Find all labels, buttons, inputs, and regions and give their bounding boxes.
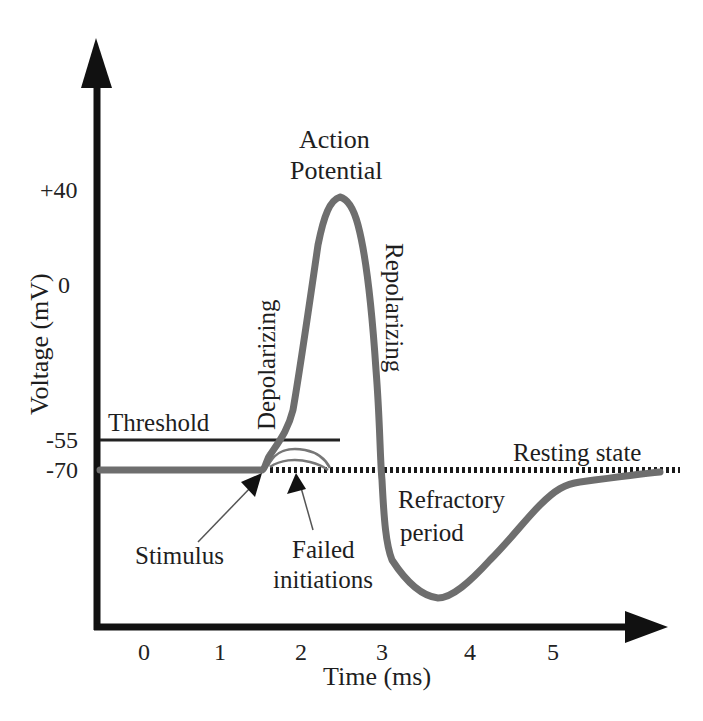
failed-arrowhead-icon (287, 473, 306, 494)
y-tick-plus40: +40 (40, 178, 78, 202)
y-tick-minus70: -70 (46, 458, 78, 482)
failed-label-line2: initiations (273, 567, 373, 592)
y-tick-0: 0 (58, 273, 70, 297)
title-action: Action (299, 127, 370, 153)
x-tick-0: 0 (138, 640, 150, 664)
stimulus-arrow-line (198, 486, 252, 542)
title-potential: Potential (290, 158, 382, 184)
failed-arrow-line (300, 484, 313, 530)
x-axis-title: Time (ms) (323, 664, 431, 690)
depolarizing-label: Depolarizing (254, 299, 279, 430)
membrane-potential-trace (100, 197, 660, 598)
y-axis-arrow-icon (81, 38, 112, 88)
x-tick-2: 2 (295, 640, 307, 664)
action-potential-diagram (0, 0, 703, 721)
x-tick-4: 4 (464, 640, 476, 664)
x-tick-3: 3 (376, 640, 388, 664)
y-tick-minus55: -55 (46, 428, 78, 452)
stimulus-label: Stimulus (135, 543, 224, 568)
x-tick-5: 5 (547, 640, 559, 664)
y-axis-title: Voltage (mV) (27, 273, 53, 415)
refractory-label-line2: period (400, 520, 464, 545)
x-axis-arrow-icon (625, 611, 668, 643)
threshold-label: Threshold (108, 410, 209, 435)
resting-state-label: Resting state (513, 440, 641, 465)
failed-label-line1: Failed (292, 537, 355, 562)
repolarizing-label: Repolarizing (382, 243, 407, 372)
x-tick-1: 1 (214, 640, 226, 664)
refractory-label-line1: Refractory (398, 487, 505, 512)
